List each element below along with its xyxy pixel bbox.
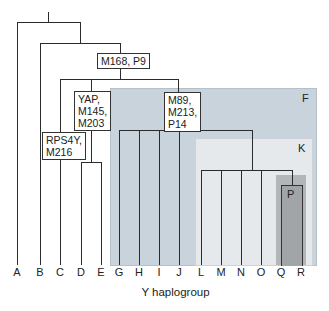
leaf-label-D: D bbox=[73, 266, 89, 278]
leaf-label-L: L bbox=[193, 266, 209, 278]
branch-D bbox=[81, 162, 82, 265]
branch-C bbox=[60, 79, 61, 265]
x-axis-label: Y haplogroup bbox=[0, 286, 329, 298]
leaf-label-N: N bbox=[233, 266, 249, 278]
leaf-label-O: O bbox=[253, 266, 269, 278]
region-label-F: F bbox=[302, 92, 309, 104]
branch-G bbox=[119, 130, 120, 265]
mutation-box-yap: YAP, M145, M203 bbox=[74, 91, 111, 131]
branch-B bbox=[40, 43, 41, 265]
branch-H bbox=[139, 130, 140, 265]
region-label-P: P bbox=[287, 188, 294, 200]
leaf-label-H: H bbox=[131, 266, 147, 278]
leaf-label-C: C bbox=[52, 266, 68, 278]
branch-N bbox=[241, 170, 242, 265]
branch-h-K bbox=[201, 170, 293, 171]
branch-L bbox=[201, 170, 202, 265]
leaf-label-E: E bbox=[93, 266, 109, 278]
branch-J bbox=[179, 130, 180, 265]
branch-I bbox=[159, 130, 160, 265]
leaf-label-J: J bbox=[171, 266, 187, 278]
branch-v2 bbox=[80, 22, 81, 43]
branch-h1 bbox=[17, 22, 81, 23]
mutation-box-m89: M89, M213, P14 bbox=[164, 92, 201, 132]
branch-A bbox=[17, 22, 18, 265]
leaf-label-B: B bbox=[32, 266, 48, 278]
branch-M bbox=[221, 170, 222, 265]
branch-K bbox=[252, 130, 253, 170]
branch-O bbox=[261, 170, 262, 265]
leaf-label-Q: Q bbox=[273, 266, 289, 278]
branch-h2 bbox=[40, 43, 121, 44]
branch-P bbox=[292, 170, 293, 185]
leaf-label-A: A bbox=[9, 266, 25, 278]
branch-h3 bbox=[60, 79, 179, 80]
mutation-box-m168: M168, P9 bbox=[97, 53, 150, 69]
branch-h-DE bbox=[81, 162, 102, 163]
mutation-box-rps4y: RPS4Y, M216 bbox=[42, 132, 86, 160]
region-label-K: K bbox=[298, 142, 305, 154]
leaf-label-M: M bbox=[213, 266, 229, 278]
leaf-label-G: G bbox=[111, 266, 127, 278]
branch-E bbox=[101, 162, 102, 265]
leaf-label-R: R bbox=[293, 266, 309, 278]
leaf-label-I: I bbox=[151, 266, 167, 278]
